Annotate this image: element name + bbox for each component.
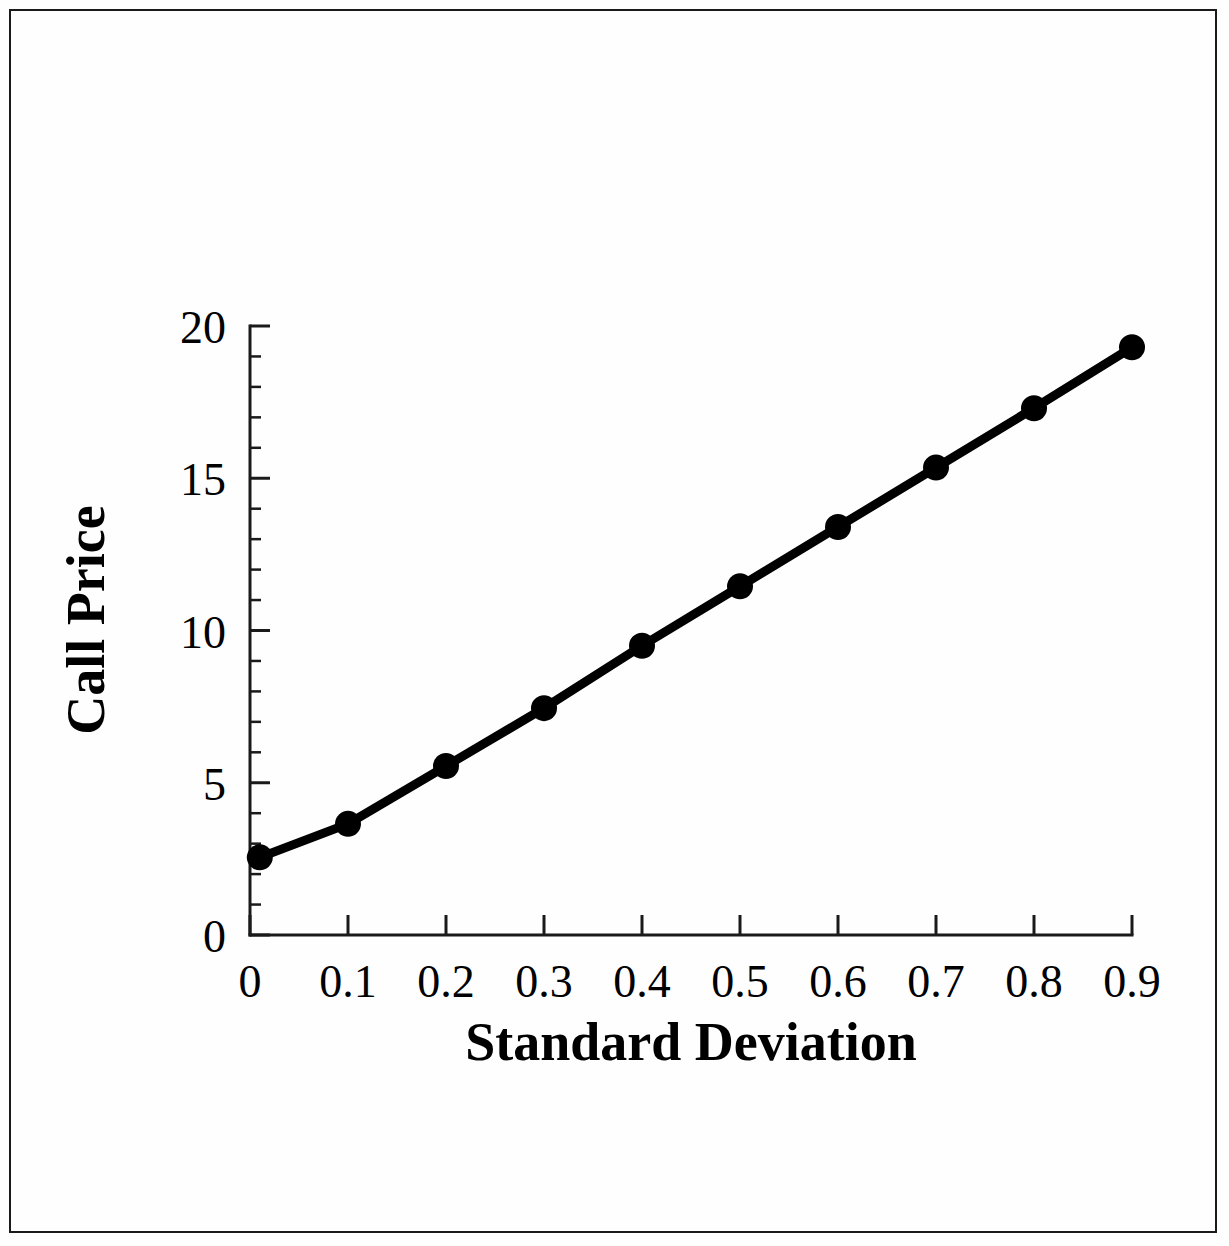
x-tick-label: 0.9 bbox=[1103, 956, 1161, 1007]
x-tick-label: 0.7 bbox=[907, 956, 965, 1007]
x-axis-ticks bbox=[250, 915, 1132, 935]
x-tick-label: 0.2 bbox=[417, 956, 475, 1007]
x-tick-label: 0.3 bbox=[515, 956, 573, 1007]
data-point-marker bbox=[629, 633, 655, 659]
axis-lines bbox=[250, 326, 1132, 935]
data-point-marker bbox=[531, 695, 557, 721]
series-line-call-price bbox=[260, 347, 1132, 857]
data-point-marker bbox=[825, 514, 851, 540]
y-tick-label: 20 bbox=[180, 302, 226, 353]
x-axis-title: Standard Deviation bbox=[465, 1012, 917, 1072]
data-point-marker bbox=[247, 844, 273, 870]
x-tick-label: 0.4 bbox=[613, 956, 671, 1007]
figure-root: 05101520 00.10.20.30.40.50.60.70.80.9 Ca… bbox=[0, 0, 1229, 1246]
data-point-marker bbox=[335, 811, 361, 837]
y-tick-label: 5 bbox=[203, 759, 226, 810]
y-axis-title: Call Price bbox=[56, 505, 116, 734]
y-axis-tick-labels: 05101520 bbox=[180, 302, 226, 962]
x-axis-tick-labels: 00.10.20.30.40.50.60.70.80.9 bbox=[239, 956, 1161, 1007]
y-axis-ticks bbox=[250, 326, 270, 935]
data-point-marker bbox=[1021, 395, 1047, 421]
x-tick-label: 0.8 bbox=[1005, 956, 1063, 1007]
data-point-marker bbox=[727, 573, 753, 599]
line-chart: 05101520 00.10.20.30.40.50.60.70.80.9 Ca… bbox=[0, 0, 1229, 1246]
y-tick-label: 10 bbox=[180, 607, 226, 658]
data-point-marker bbox=[1119, 334, 1145, 360]
x-tick-label: 0 bbox=[239, 956, 262, 1007]
y-tick-label: 0 bbox=[203, 911, 226, 962]
x-tick-label: 0.6 bbox=[809, 956, 867, 1007]
data-point-marker bbox=[923, 455, 949, 481]
series-markers bbox=[247, 334, 1145, 870]
y-tick-label: 15 bbox=[180, 454, 226, 505]
x-tick-label: 0.5 bbox=[711, 956, 769, 1007]
x-tick-label: 0.1 bbox=[319, 956, 377, 1007]
data-point-marker bbox=[433, 753, 459, 779]
